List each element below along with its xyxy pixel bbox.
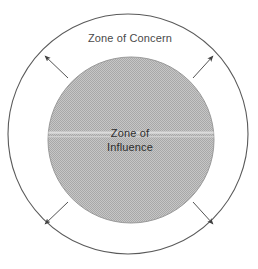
inner-zone-label-line1: Zone of [111, 127, 150, 139]
zone-diagram-canvas: Zone of Concern Zone of Influence [0, 0, 258, 269]
inner-circle-zone-of-influence [48, 57, 214, 223]
inner-zone-label-line2: Influence [107, 141, 153, 153]
zone-diagram: Zone of Concern Zone of Influence [0, 0, 258, 269]
outer-zone-label: Zone of Concern [88, 32, 172, 44]
